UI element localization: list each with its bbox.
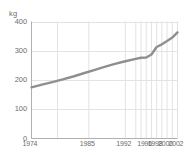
- y-axis-tick-label: 300: [1, 47, 27, 55]
- y-axis-tick-label: 200: [1, 76, 27, 84]
- data-series-line: [32, 32, 178, 87]
- x-axis-tick-label: 1992: [116, 140, 131, 148]
- x-axis-tick-label: 2002: [169, 140, 184, 148]
- x-axis-tick-label: 1985: [80, 140, 95, 148]
- line-chart: kg 0100200300400 19741985199219961998200…: [0, 0, 188, 155]
- y-axis-tick-label: 100: [1, 105, 27, 113]
- x-axis-tick-label: 1974: [23, 140, 38, 148]
- y-axis-tick-label: 400: [1, 18, 27, 26]
- plot-area: [0, 0, 188, 155]
